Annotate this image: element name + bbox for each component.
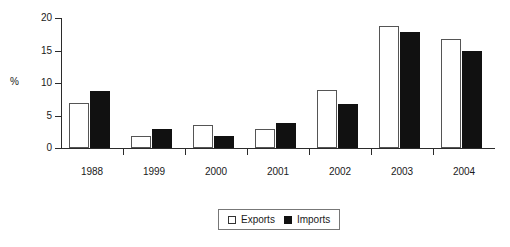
y-axis-tick-label: 5 bbox=[30, 111, 52, 121]
x-axis-tick bbox=[185, 149, 186, 155]
y-axis-line bbox=[61, 18, 62, 149]
black-square-icon bbox=[284, 216, 292, 224]
y-axis-tick bbox=[55, 83, 61, 84]
x-axis-label-2000: 2000 bbox=[185, 166, 247, 177]
legend-item-exports: Exports bbox=[228, 214, 275, 225]
x-axis-tick bbox=[123, 149, 124, 155]
bar-exports-1999 bbox=[131, 136, 151, 148]
bar-imports-1988 bbox=[90, 91, 110, 148]
y-axis-tick bbox=[55, 51, 61, 52]
x-axis-label-2001: 2001 bbox=[247, 166, 309, 177]
bar-imports-1999 bbox=[152, 129, 172, 148]
y-axis-tick-label: 0 bbox=[30, 143, 52, 153]
bar-imports-2002 bbox=[338, 104, 358, 148]
chart-legend: Exports Imports bbox=[218, 209, 340, 230]
bar-imports-2003 bbox=[400, 32, 420, 148]
x-axis-tick bbox=[433, 149, 434, 155]
y-axis-tick bbox=[55, 116, 61, 117]
x-axis-label-2003: 2003 bbox=[371, 166, 433, 177]
x-axis-tick bbox=[309, 149, 310, 155]
x-axis-label-2002: 2002 bbox=[309, 166, 371, 177]
bar-exports-2001 bbox=[255, 129, 275, 149]
y-axis-tick bbox=[55, 18, 61, 19]
legend-item-imports: Imports bbox=[284, 214, 330, 225]
bar-imports-2004 bbox=[462, 51, 482, 148]
y-axis-tick-label: 10 bbox=[30, 78, 52, 88]
x-axis-tick bbox=[247, 149, 248, 155]
bar-chart: % 05101520 1988199920002001200220032004 … bbox=[0, 0, 510, 247]
bar-imports-2000 bbox=[214, 136, 234, 148]
y-axis-title: % bbox=[10, 76, 19, 88]
x-axis-line bbox=[61, 148, 495, 149]
x-axis-tick bbox=[371, 149, 372, 155]
y-axis-tick bbox=[55, 148, 61, 149]
x-axis-label-2004: 2004 bbox=[433, 166, 495, 177]
white-square-icon bbox=[228, 216, 236, 224]
x-axis-label-1999: 1999 bbox=[123, 166, 185, 177]
y-axis-tick-label: 15 bbox=[30, 46, 52, 56]
legend-label-imports: Imports bbox=[297, 214, 330, 225]
bar-exports-2000 bbox=[193, 125, 213, 148]
x-axis-label-1988: 1988 bbox=[61, 166, 123, 177]
y-axis-tick-label: 20 bbox=[30, 13, 52, 23]
bar-exports-2003 bbox=[379, 26, 399, 148]
bar-imports-2001 bbox=[276, 123, 296, 148]
bar-exports-2002 bbox=[317, 90, 337, 148]
legend-label-exports: Exports bbox=[241, 214, 275, 225]
bar-exports-2004 bbox=[441, 39, 461, 148]
bar-exports-1988 bbox=[69, 103, 89, 149]
